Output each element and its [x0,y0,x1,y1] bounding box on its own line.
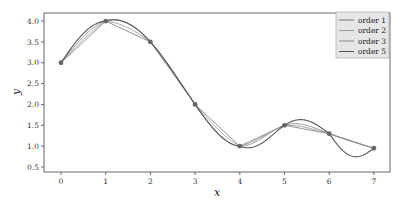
x-tick-label: 0 [59,177,64,186]
data-point [148,40,153,45]
x-tick-label: 4 [237,177,242,186]
y-tick-label: 0.5 [27,163,39,172]
data-point [59,60,64,65]
spline-interpolation-chart: 0.51.01.52.02.53.03.54.0 01234567 x y or… [0,0,409,204]
y-tick-label: 2.0 [27,100,39,109]
x-axis-ticks: 01234567 [59,172,377,186]
x-tick-label: 7 [372,177,377,186]
x-tick-label: 3 [193,177,198,186]
data-point [372,146,377,151]
y-tick-label: 3.5 [27,38,39,47]
data-point [327,131,332,136]
data-point [282,123,287,128]
legend-label: order 5 [358,47,386,56]
y-axis-label: y [10,88,23,96]
data-point [193,102,198,107]
y-tick-label: 3.0 [27,58,39,67]
legend-label: order 3 [358,37,386,46]
x-axis-label: x [214,186,221,199]
data-point [237,144,242,149]
legend-label: order 1 [358,16,386,25]
x-tick-label: 2 [148,177,153,186]
y-tick-label: 1.5 [27,121,39,130]
legend-label: order 2 [358,26,386,35]
y-axis-ticks: 0.51.01.52.02.53.03.54.0 [27,17,44,172]
x-tick-label: 6 [327,177,332,186]
y-tick-label: 4.0 [27,17,39,26]
legend: order 1order 2order 3order 5 [336,12,389,58]
y-tick-label: 1.0 [27,142,39,151]
x-tick-label: 1 [103,177,108,186]
y-tick-label: 2.5 [27,79,39,88]
x-tick-label: 5 [282,177,287,186]
data-point [103,19,108,24]
